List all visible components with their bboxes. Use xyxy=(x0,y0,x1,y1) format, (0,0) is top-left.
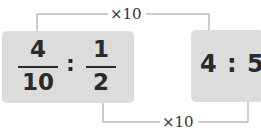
denominator: 2 xyxy=(86,71,116,97)
simplified-ratio: 4 : 5 xyxy=(200,50,261,78)
top-multiplier-label: ×10 xyxy=(108,6,144,22)
fraction-1-over-2: 1 2 xyxy=(86,38,116,97)
ratio-colon: : xyxy=(66,51,75,76)
top-connector xyxy=(37,14,108,31)
fraction-bar xyxy=(86,66,116,68)
numerator: 1 xyxy=(86,38,116,64)
denominator: 10 xyxy=(18,71,58,97)
numerator: 4 xyxy=(18,38,58,64)
fraction-4-over-10: 4 10 xyxy=(18,38,58,97)
fraction-bar xyxy=(18,66,58,68)
bottom-multiplier-label: ×10 xyxy=(160,114,196,130)
